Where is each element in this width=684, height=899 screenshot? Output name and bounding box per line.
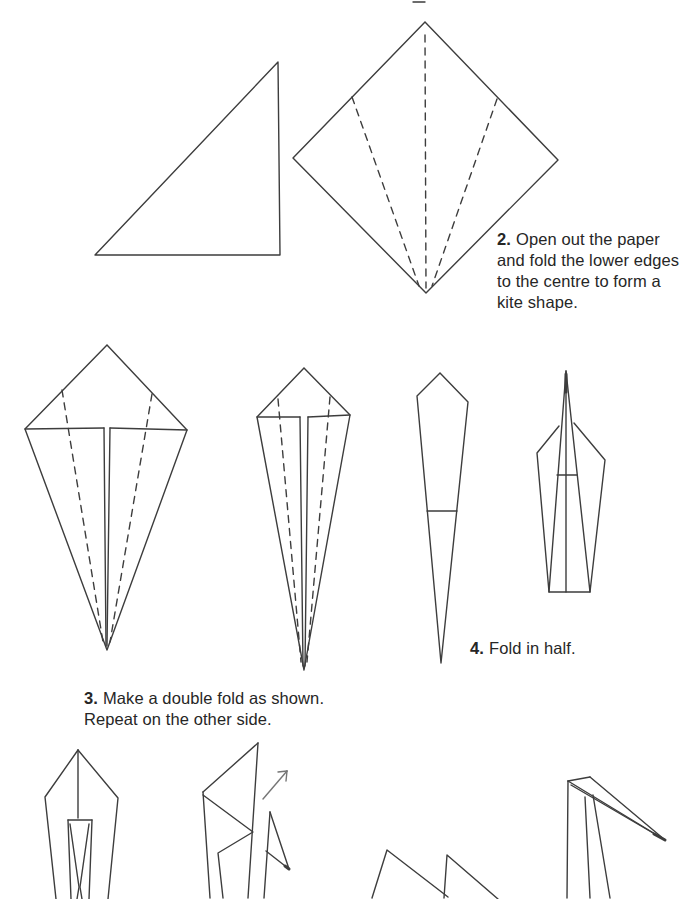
step4-folded-in-half-figure xyxy=(537,371,605,592)
step3-double-fold-figure xyxy=(257,368,350,670)
step2-line1: Open out the paper xyxy=(516,230,660,248)
step1-folded-triangle-figure xyxy=(95,62,280,255)
step6-head-beak-figure xyxy=(567,777,665,898)
step4-number: 4. xyxy=(470,639,484,657)
step2-line2: and fold the lower edges xyxy=(497,250,683,271)
step4-line1: Fold in half. xyxy=(489,639,576,657)
step2-number: 2. xyxy=(497,230,511,248)
origami-instruction-page: 2.Open out the paper and fold the lower … xyxy=(0,0,684,899)
step3-kite-shape-figure xyxy=(25,345,187,650)
step5-double-fold-result-figure xyxy=(45,750,118,899)
step2-caption: 2.Open out the paper and fold the lower … xyxy=(497,229,683,313)
fold-direction-arrow xyxy=(263,771,287,799)
origami-diagram-svg xyxy=(0,0,684,899)
step5-reverse-fold-figure xyxy=(203,743,289,898)
step3-line1: Make a double fold as shown. xyxy=(103,689,324,707)
step4-narrow-kite-figure xyxy=(417,373,468,663)
step3-caption: 3.Make a double fold as shown. Repeat on… xyxy=(84,688,364,730)
step3-line2: Repeat on the other side. xyxy=(84,709,364,730)
step6-zigzag-neck-figure xyxy=(372,850,498,899)
step2-line4: kite shape. xyxy=(497,292,683,313)
step4-caption: 4.Fold in half. xyxy=(470,638,630,659)
step2-line3: to the centre to form a xyxy=(497,271,683,292)
step3-number: 3. xyxy=(84,689,98,707)
